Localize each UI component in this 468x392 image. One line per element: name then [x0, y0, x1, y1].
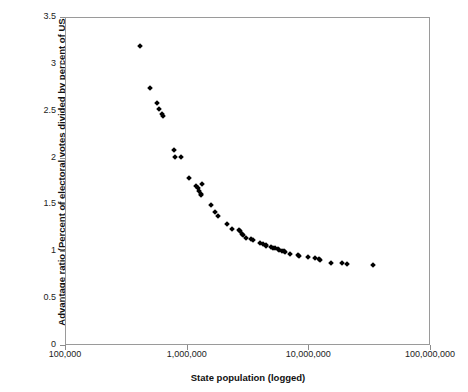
y-tick-mark	[60, 251, 65, 252]
y-tick-label: 2	[16, 152, 56, 162]
plot-area	[65, 17, 430, 345]
x-tick-label: 1,000,000	[142, 349, 232, 359]
y-tick-label: 1.5	[16, 198, 56, 208]
x-axis-title: State population (logged)	[65, 372, 431, 383]
y-tick-label: 0	[16, 339, 56, 349]
y-tick-label: 2.5	[16, 105, 56, 115]
y-tick-label: 0.5	[16, 292, 56, 302]
x-tick-label: 100,000,000	[385, 349, 468, 359]
y-tick-mark	[60, 298, 65, 299]
scatter-chart-figure: Advantage ratio (Percent of electoral vo…	[0, 0, 468, 392]
y-tick-label: 3.5	[16, 11, 56, 21]
y-tick-mark	[60, 158, 65, 159]
y-tick-mark	[60, 17, 65, 18]
x-tick-label: 100,000	[20, 349, 110, 359]
y-tick-mark	[60, 111, 65, 112]
y-tick-mark	[60, 64, 65, 65]
y-tick-label: 1	[16, 245, 56, 255]
y-tick-label: 3	[16, 58, 56, 68]
y-tick-mark	[60, 204, 65, 205]
x-tick-label: 10,000,000	[263, 349, 353, 359]
